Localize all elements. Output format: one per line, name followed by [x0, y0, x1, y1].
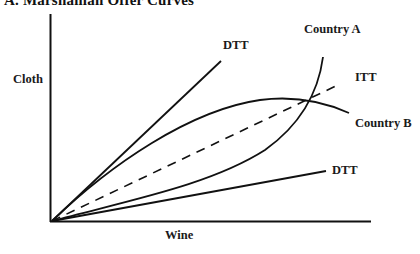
country-a-label: Country A [304, 23, 361, 36]
dtt-lower-line [52, 171, 326, 221]
itt-label: ITT [355, 71, 377, 84]
x-axis-label: Wine [165, 229, 193, 242]
itt-line [52, 85, 338, 221]
country-b-label: Country B [355, 117, 412, 130]
country-b-offer-curve [52, 99, 349, 221]
dtt-upper-label: DTT [223, 39, 249, 52]
y-axis-label: Cloth [13, 73, 43, 86]
dtt-lower-label: DTT [332, 164, 358, 177]
